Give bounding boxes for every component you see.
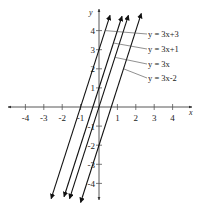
x-tick-label: 3 <box>152 113 157 123</box>
plot-lines <box>51 13 141 202</box>
legend-entry: y = 3x+1 <box>148 44 179 54</box>
y-tick-label: -2 <box>88 141 96 151</box>
legend-leader <box>115 57 147 64</box>
legend-entry: y = 3x <box>148 59 171 69</box>
chart: xy-4-3-2-112344321-1-2-3-4 y = 3x+3y = 3… <box>0 0 199 204</box>
y-tick-label: 1 <box>91 83 96 93</box>
y-axis-label: y <box>88 8 93 17</box>
y-tick-label: 4 <box>91 26 96 36</box>
x-tick-label: -4 <box>22 113 30 123</box>
x-tick-label: 2 <box>134 113 139 123</box>
y-tick-label: 3 <box>91 45 96 55</box>
x-tick-label: -2 <box>58 113 66 123</box>
y-tick-label: -4 <box>88 179 96 189</box>
legend-entry: y = 3x+3 <box>148 29 179 39</box>
x-tick-label: 1 <box>115 113 120 123</box>
legend-leader <box>105 31 147 34</box>
x-axis-label: x <box>188 108 193 117</box>
x-tick-label: 4 <box>170 113 175 123</box>
legend-entry: y = 3x-2 <box>148 73 177 83</box>
line-series-3 <box>81 13 142 202</box>
x-tick-label: -3 <box>40 113 48 123</box>
legend-leader <box>124 69 147 78</box>
legend: y = 3x+3y = 3x+1y = 3xy = 3x-2 <box>105 29 179 83</box>
